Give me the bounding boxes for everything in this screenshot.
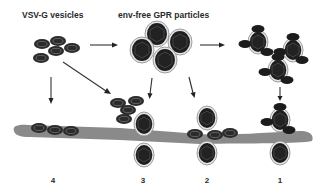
vesicle-cluster — [33, 36, 80, 63]
pathway-2-elements — [187, 106, 238, 165]
gpr-particles-label: env-free GPR particles — [118, 10, 209, 20]
pseudotyped-particle-cluster — [239, 25, 309, 84]
vsvg-vesicles-label: VSV-G vesicles — [22, 10, 84, 20]
pathway-label-2: 2 — [205, 176, 210, 185]
gpr-particle-cluster — [130, 21, 192, 73]
pathway-label-3: 3 — [141, 176, 146, 185]
diagram: VSV-G vesicles env-free GPR particles — [0, 0, 326, 191]
pathway-label-4: 4 — [51, 176, 56, 185]
pathway-label-1: 1 — [278, 176, 283, 185]
